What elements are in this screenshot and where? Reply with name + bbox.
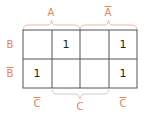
cell-r1-c2 (80, 59, 108, 87)
label-c: C (73, 102, 87, 112)
label-a: A (44, 8, 58, 18)
label-b: B (3, 40, 17, 50)
cell-r0-c0 (23, 30, 51, 58)
label-c-bar-right: C (116, 99, 130, 109)
brace-c (52, 88, 109, 99)
label-b-bar: B (3, 69, 17, 79)
label-c-bar-left: C (30, 99, 44, 109)
cell-r0-c2 (80, 30, 108, 58)
cell-r1-c3: 1 (109, 59, 137, 87)
cell-r0-c3: 1 (109, 30, 137, 58)
label-a-bar: A (101, 8, 115, 18)
cell-r0-c1: 1 (52, 30, 80, 58)
cell-r1-c0: 1 (23, 59, 51, 87)
cell-r1-c1 (52, 59, 80, 87)
